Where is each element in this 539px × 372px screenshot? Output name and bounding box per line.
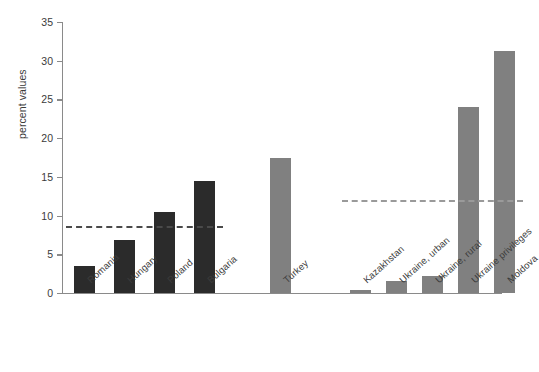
y-axis-title: percent values bbox=[16, 19, 28, 139]
y-tick-label: 5 bbox=[47, 248, 53, 260]
y-tick-mark bbox=[57, 61, 62, 62]
bar bbox=[350, 290, 371, 293]
y-tick-label: 10 bbox=[41, 210, 53, 222]
y-tick-mark bbox=[57, 99, 62, 100]
y-tick-mark bbox=[57, 293, 62, 294]
y-tick-label: 25 bbox=[41, 93, 53, 105]
y-axis-line bbox=[62, 22, 63, 293]
x-axis-line bbox=[62, 293, 502, 294]
reference-line-left bbox=[66, 226, 223, 228]
y-tick-label: 15 bbox=[41, 171, 53, 183]
y-tick-label: 20 bbox=[41, 132, 53, 144]
y-tick-mark bbox=[57, 177, 62, 178]
y-tick-label: 35 bbox=[41, 16, 53, 28]
reference-line-right bbox=[342, 200, 523, 202]
y-tick-mark bbox=[57, 254, 62, 255]
y-tick-label: 30 bbox=[41, 55, 53, 67]
y-tick-mark bbox=[57, 216, 62, 217]
y-tick-mark bbox=[57, 138, 62, 139]
y-tick-mark bbox=[57, 22, 62, 23]
y-tick-label: 0 bbox=[47, 287, 53, 299]
